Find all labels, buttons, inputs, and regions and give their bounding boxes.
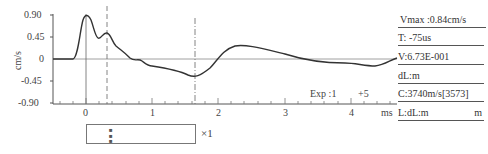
- x-tick-label: 4: [349, 107, 354, 118]
- velocity-waveform: [53, 16, 397, 77]
- dl-value: dL:m: [398, 70, 420, 81]
- scroll-marker-icon[interactable]: ■: [109, 138, 113, 144]
- y-tick-label: 0: [39, 53, 44, 64]
- y-tick-label: -0.45: [21, 75, 42, 86]
- x-tick-label: 1: [150, 107, 155, 118]
- y-tick-label: 0.45: [27, 31, 45, 42]
- x-tick-label: 3: [283, 107, 288, 118]
- info-v: V:6.73E-001: [398, 50, 484, 65]
- l-unit: m: [474, 106, 482, 120]
- info-c: C:3740m/s[3573]: [398, 87, 484, 102]
- v-value: V:6.73E-001: [398, 51, 449, 62]
- info-l: L:dL:m m: [398, 106, 484, 121]
- y-tick-label: -0.90: [18, 97, 39, 108]
- gain-label: +5: [358, 88, 369, 99]
- exp-label: Exp :1: [310, 88, 336, 99]
- y-axis-unit: cm/s: [12, 51, 23, 70]
- x-tick-label: 0: [83, 107, 88, 118]
- x-minor-ticks: [60, 98, 390, 104]
- info-dl: dL:m: [398, 69, 484, 84]
- y-tick-label: 0.90: [24, 9, 42, 20]
- c-value: C:3740m/s[3573]: [398, 88, 469, 99]
- x-axis-unit: ms: [381, 107, 393, 118]
- x-tick-label: 2: [216, 107, 221, 118]
- l-value: L:dL:m: [398, 107, 429, 118]
- zoom-factor-label: ×1: [201, 127, 213, 139]
- info-t: T: -75us: [398, 31, 484, 46]
- overview-scroll-box[interactable]: ■ ■ ■: [86, 124, 196, 144]
- info-vmax: Vmax :0.84cm/s: [398, 13, 486, 28]
- vmax-value: Vmax :0.84cm/s: [400, 14, 466, 25]
- t-value: T: -75us: [398, 32, 431, 43]
